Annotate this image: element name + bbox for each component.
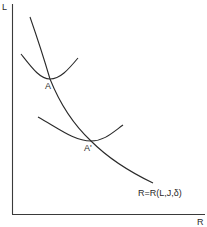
point-a-label: A (45, 81, 51, 91)
x-axis-label: R (197, 217, 204, 227)
upper-isocurve (21, 54, 78, 79)
lower-isocurve (38, 117, 123, 141)
main-curve (30, 17, 153, 183)
point-a-prime-label: A' (84, 143, 92, 153)
economic-diagram: L R A A' R=R(L,J,δ) (0, 0, 207, 227)
main-curve-label: R=R(L,J,δ) (138, 188, 182, 198)
y-axis-label: L (2, 2, 7, 12)
